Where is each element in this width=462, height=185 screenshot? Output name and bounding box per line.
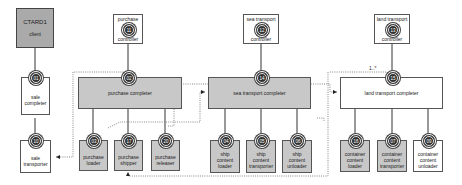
container-content-transporter-badge-icon: 07 [386, 134, 400, 148]
purchase-releaser-badge-icon: 20 [159, 134, 173, 148]
worker-label: loader [348, 163, 362, 169]
worker-label: transporter [249, 163, 273, 169]
controller-label-top: land transport [377, 16, 408, 22]
worker-label: loader [218, 163, 232, 169]
ship-content-transporter-badge-icon: 05 [255, 134, 269, 148]
worker-label: shipper [120, 160, 136, 166]
ship-content-unloader-badge-icon: 06 [291, 134, 305, 148]
container-content-loader-badge-icon: 16 [349, 134, 363, 148]
sea-transport-completer-badge-icon: 14 [255, 71, 269, 85]
purchase-shipper-badge-icon: 17 [122, 134, 136, 148]
client-subtitle: client [29, 31, 41, 37]
sale-transporter-badge-icon: 10 [29, 134, 43, 148]
land-transport-completer-badge-icon: 15 [386, 71, 400, 85]
container-content-unloader-badge-icon: 09 [422, 134, 436, 148]
worker-label: releaser [156, 160, 174, 166]
completer-label: purchase completer [108, 90, 152, 96]
ship-content-loader-badge-icon: 04 [219, 134, 233, 148]
client-node[interactable]: CTARD1 client [16, 8, 54, 48]
controller-label-top: sea transport [246, 16, 275, 22]
worker-label: unloader [287, 163, 306, 169]
completer-label: land transport completer [365, 90, 419, 96]
client-title: CTARD1 [23, 19, 47, 25]
worker-label: unloader [418, 163, 437, 169]
sea-transport-controller-badge-icon: 12 [255, 23, 269, 37]
land-transport-controller-badge-icon: 13 [386, 23, 400, 37]
completer-label: completer [25, 100, 47, 106]
purchase-loader-badge-icon: 03 [87, 134, 101, 148]
purchase-controller-badge-icon: 11 [122, 23, 136, 37]
worker-label: transporter [23, 161, 47, 167]
multiplicity-label: 1..* [369, 65, 377, 71]
process-diagram: CTARD1 client purchase controller 11 sea… [0, 0, 462, 185]
controller-label-top: purchase [118, 16, 139, 22]
worker-label: loader [87, 160, 101, 166]
completer-label: sea transport completer [233, 90, 286, 96]
sale-completer-badge-icon: 01 [29, 71, 43, 85]
worker-label: transporter [380, 163, 404, 169]
purchase-completer-badge-icon: 02 [122, 71, 136, 85]
